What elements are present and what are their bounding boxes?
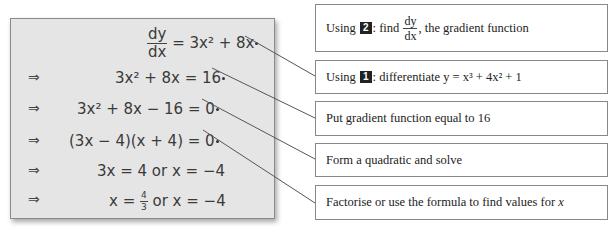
dy-dx-fraction: dy dx bbox=[147, 27, 167, 60]
connector-dot bbox=[222, 77, 225, 80]
step-badge-1: 1 bbox=[360, 71, 372, 83]
dy-dx-fraction: dydx bbox=[403, 15, 417, 42]
working-box: dy dx = 3x² + 8x ⇒ 3x² + 8x = 16 ⇒ 3x² +… bbox=[10, 18, 275, 219]
note-form-quadratic: Form a quadratic and solve bbox=[315, 143, 608, 177]
step-badge-2: 2 bbox=[360, 22, 372, 34]
implies-arrow: ⇒ bbox=[28, 162, 40, 178]
connector-dot bbox=[216, 140, 219, 143]
implies-arrow: ⇒ bbox=[28, 132, 40, 148]
four-thirds-fraction: 43 bbox=[140, 191, 148, 212]
derivative-rhs: = 3x² + 8x bbox=[167, 34, 254, 52]
note-find-gradient: Using 2: find dydx, the gradient functio… bbox=[315, 4, 608, 52]
equation-row-derivative: dy dx = 3x² + 8x bbox=[11, 29, 274, 53]
equation-row-solution: ⇒ x = 43 or x = −4 bbox=[11, 189, 274, 213]
note-differentiate: Using 1: differentiate y = x³ + 4x² + 1 bbox=[315, 60, 608, 94]
implies-arrow: ⇒ bbox=[28, 100, 40, 116]
implies-arrow: ⇒ bbox=[28, 69, 40, 85]
equation-row-set-16: ⇒ 3x² + 8x = 16 bbox=[11, 67, 274, 91]
note-factorise: Factorise or use the formula to find val… bbox=[315, 185, 608, 220]
equation-row-factorised: ⇒ (3x − 4)(x + 4) = 0 bbox=[11, 130, 274, 154]
connector-dot bbox=[216, 108, 219, 111]
equation-row-quadratic: ⇒ 3x² + 8x − 16 = 0 bbox=[11, 98, 274, 122]
implies-arrow: ⇒ bbox=[28, 191, 40, 207]
note-equal-16: Put gradient function equal to 16 bbox=[315, 101, 608, 136]
equation-row-roots: ⇒ 3x = 4 or x = −4 bbox=[11, 160, 274, 184]
connector-dot bbox=[255, 42, 258, 45]
